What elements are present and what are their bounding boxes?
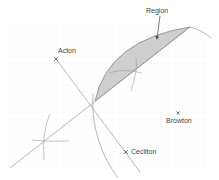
cecilton-label: Cecilton	[131, 148, 156, 155]
diagram-canvas	[0, 0, 219, 180]
region-label: Region	[146, 7, 168, 14]
acton-label: Acton	[58, 47, 76, 54]
browton-label: Browton	[166, 117, 192, 124]
